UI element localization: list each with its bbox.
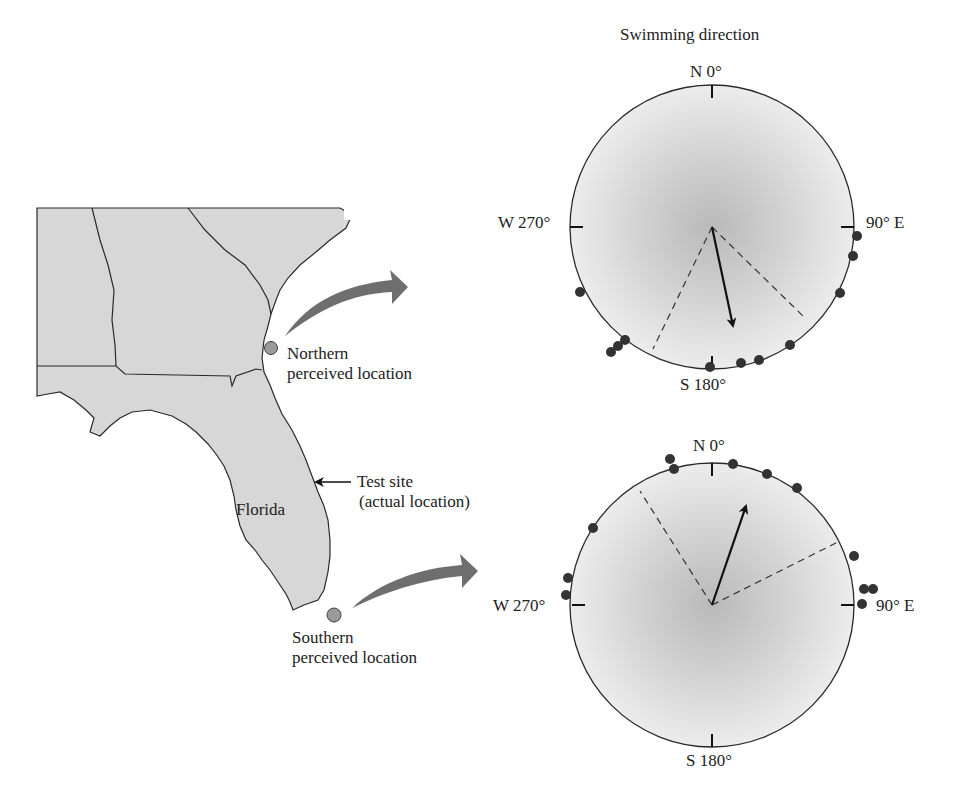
northern-circular-plot	[570, 85, 862, 372]
bottom-south-label: S 180°	[686, 751, 732, 771]
bottom-west-label: W 270°	[493, 596, 545, 616]
top-west-label: W 270°	[498, 213, 550, 233]
test-site-label: Test site (actual location)	[357, 472, 470, 512]
top-east-label: 90° E	[866, 213, 904, 233]
test-site-line2: (actual location)	[359, 492, 470, 512]
chart-title: Swimming direction	[620, 25, 759, 45]
bottom-north-label: N 0°	[693, 436, 725, 456]
southern-arrow	[352, 554, 478, 608]
test-site-line1: Test site	[357, 472, 470, 492]
southern-location-label: Southern perceived location	[292, 628, 417, 668]
southern-location-marker	[327, 608, 341, 622]
top-north-label: N 0°	[690, 62, 722, 82]
florida-label: Florida	[236, 500, 285, 520]
land-mass	[37, 208, 352, 610]
southern-circular-plot	[561, 454, 878, 747]
southeast-us-map	[0, 0, 953, 792]
northern-location-label: Northern perceived location	[287, 344, 412, 384]
northern-label-line2: perceived location	[287, 364, 412, 384]
top-south-label: S 180°	[680, 375, 726, 395]
northern-label-line1: Northern	[287, 344, 412, 364]
southern-label-line2: perceived location	[292, 648, 417, 668]
northern-arrow	[285, 270, 408, 336]
southern-label-line1: Southern	[292, 628, 417, 648]
bottom-east-label: 90° E	[876, 596, 914, 616]
northern-location-marker	[265, 342, 278, 355]
